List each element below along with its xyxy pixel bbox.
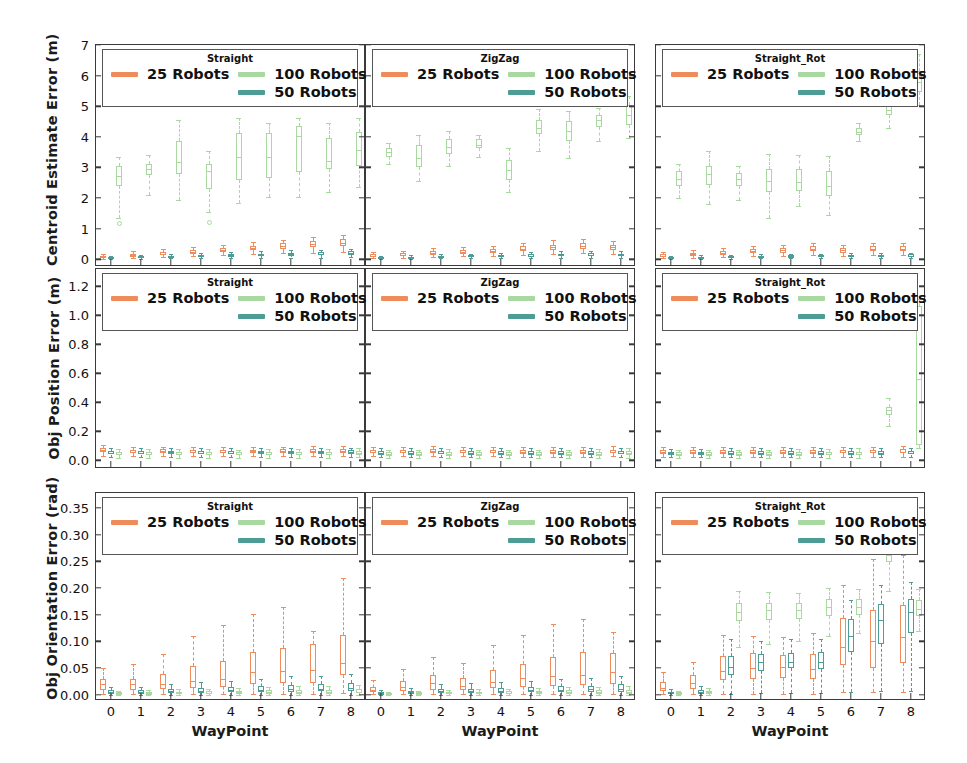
x-tick-mark: [820, 461, 821, 467]
y-tick-mark: [656, 228, 661, 229]
x-tick-mark: [410, 259, 411, 265]
cap-upper: [356, 685, 361, 686]
x-tick-mark: [730, 693, 731, 699]
legend-straight-row2[interactable]: Straight25 Robots100 Robots50 Robots: [102, 497, 358, 555]
y-tick-mark: [366, 44, 371, 45]
y-tick-mark: [656, 641, 661, 642]
y-tick-label: 0.4: [68, 395, 89, 410]
legend-entries: 25 Robots100 Robots50 Robots: [111, 514, 349, 549]
x-tick-mark: [700, 461, 701, 467]
x-tick-mark: [380, 461, 381, 467]
legend-zigzag-row2[interactable]: ZigZag25 Robots100 Robots50 Robots: [372, 497, 628, 555]
y-tick-mark: [366, 228, 371, 229]
y-tick-mark: [96, 460, 101, 461]
x-tick-label: 5: [817, 704, 825, 719]
x-axis-title: WayPoint: [461, 723, 538, 739]
y-tick-mark-right: [359, 44, 364, 45]
x-tick-mark: [170, 461, 171, 467]
legend-straight-row1[interactable]: Straight25 Robots100 Robots50 Robots: [102, 273, 358, 331]
legend-zigzag-row0[interactable]: ZigZag25 Robots100 Robots50 Robots: [372, 49, 628, 107]
y-tick-mark: [656, 75, 661, 76]
cap-lower: [916, 631, 921, 632]
y-tick-mark: [366, 167, 371, 168]
legend-title: ZigZag: [381, 53, 619, 65]
whisker-upper: [919, 589, 920, 600]
legend-label-100-robots: 100 Robots: [834, 514, 926, 531]
x-tick-mark: [470, 259, 471, 265]
x-tick-mark: [260, 259, 261, 265]
x-tick-label: 7: [877, 704, 885, 719]
legend-label-100-robots: 100 Robots: [274, 290, 366, 307]
x-tick-mark: [140, 259, 141, 265]
x-tick-mark: [590, 259, 591, 265]
y-tick-mark-right: [359, 228, 364, 229]
legend-label-100-robots: 100 Robots: [544, 290, 636, 307]
legend-straight-row0[interactable]: Straight25 Robots100 Robots50 Robots: [102, 49, 358, 107]
y-tick-mark: [96, 507, 101, 508]
x-tick-mark: [590, 693, 591, 699]
x-tick-mark: [380, 693, 381, 699]
y-tick-label: 0.10: [60, 634, 89, 649]
legend-zigzag-row1[interactable]: ZigZag25 Robots100 Robots50 Robots: [372, 273, 628, 331]
y-tick-mark-right: [919, 402, 924, 403]
y-tick-mark-right: [629, 587, 634, 588]
y-tick-label: 0.00: [60, 687, 89, 702]
x-tick-label: 2: [727, 704, 735, 719]
x-tick-label: 8: [617, 704, 625, 719]
legend-swatch-50-robots: [798, 90, 825, 95]
y-tick-mark: [656, 694, 661, 695]
x-tick-mark: [590, 461, 591, 467]
legend-entries: 25 Robots100 Robots50 Robots: [111, 66, 349, 101]
median-line: [356, 692, 362, 693]
y-tick-mark: [96, 614, 101, 615]
y-tick-mark-right: [359, 561, 364, 562]
median-line: [626, 453, 632, 454]
legend-swatch-25-robots: [381, 72, 408, 77]
x-tick-mark: [230, 693, 231, 699]
x-tick-label: 0: [377, 704, 385, 719]
y-tick-mark-right: [629, 344, 634, 345]
y-tick-mark: [96, 197, 101, 198]
y-tick-mark: [366, 667, 371, 668]
y-tick-mark-right: [629, 431, 634, 432]
legend-straight_rot-row0[interactable]: Straight_Rot25 Robots100 Robots50 Robots: [662, 49, 918, 107]
x-tick-mark: [620, 259, 621, 265]
legend-straight_rot-row1[interactable]: Straight_Rot25 Robots100 Robots50 Robots: [662, 273, 918, 331]
legend-entries: 25 Robots100 Robots50 Robots: [671, 514, 909, 549]
y-tick-mark: [96, 259, 101, 260]
x-tick-mark: [820, 259, 821, 265]
legend-title: ZigZag: [381, 277, 619, 289]
x-tick-mark: [530, 693, 531, 699]
legend-swatch-25-robots: [381, 520, 408, 525]
x-tick-label: 1: [137, 704, 145, 719]
y-tick-label: 0.2: [68, 424, 89, 439]
legend-label-100-robots: 100 Robots: [544, 514, 636, 531]
legend-swatch-100-robots: [508, 520, 535, 525]
x-tick-label: 5: [527, 704, 535, 719]
y-tick-mark: [656, 136, 661, 137]
y-tick-mark-right: [629, 460, 634, 461]
legend-straight_rot-row2[interactable]: Straight_Rot25 Robots100 Robots50 Robots: [662, 497, 918, 555]
x-tick-mark: [140, 461, 141, 467]
x-tick-mark: [560, 259, 561, 265]
whisker-lower: [359, 166, 360, 187]
x-tick-mark: [440, 693, 441, 699]
y-tick-mark: [656, 507, 661, 508]
y-tick-mark: [656, 373, 661, 374]
y-tick-mark-right: [629, 614, 634, 615]
median-line: [356, 453, 362, 454]
legend-swatch-50-robots: [238, 90, 265, 95]
y-tick-mark: [366, 694, 371, 695]
x-tick-mark: [530, 259, 531, 265]
x-tick-mark: [790, 461, 791, 467]
y-axis-label-row-0: Centroid Estimate Error (m): [44, 44, 60, 266]
x-tick-mark: [820, 693, 821, 699]
x-tick-mark: [560, 461, 561, 467]
y-tick-mark-right: [629, 507, 634, 508]
y-tick-mark-right: [629, 136, 634, 137]
x-tick-mark: [290, 461, 291, 467]
x-tick-label: 6: [557, 704, 565, 719]
legend-swatch-100-robots: [238, 520, 265, 525]
y-tick-mark-right: [629, 286, 634, 287]
x-tick-mark: [110, 259, 111, 265]
